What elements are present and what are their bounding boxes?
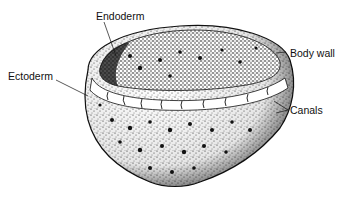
label-body-wall: Body wall xyxy=(290,47,335,59)
label-ectoderm: Ectoderm xyxy=(8,70,53,82)
sponge-diagram xyxy=(0,0,346,199)
label-canals: Canals xyxy=(290,104,323,116)
leader-ectoderm xyxy=(56,80,88,96)
label-endoderm: Endoderm xyxy=(96,10,144,22)
